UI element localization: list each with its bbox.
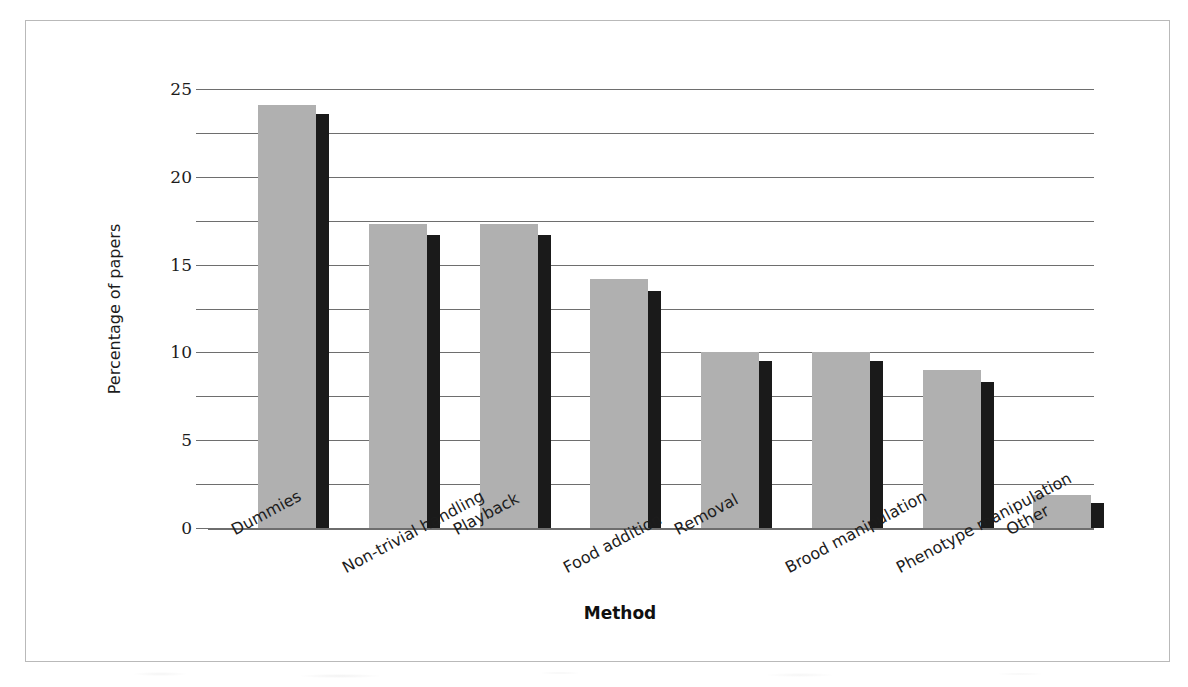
bar-gray (923, 370, 981, 528)
bar-group (369, 89, 440, 528)
y-axis-tick (196, 440, 208, 441)
bar-black (759, 361, 772, 528)
y-axis-tick (196, 89, 208, 90)
bar-group (1033, 89, 1104, 528)
y-axis-tick-labels: 0510152025 (154, 89, 192, 528)
bar-black (538, 235, 551, 528)
bar-group (923, 89, 994, 528)
y-axis-tick-label: 10 (170, 342, 192, 362)
bar-gray (812, 352, 870, 528)
y-axis-tick (196, 133, 208, 134)
y-axis-tick (196, 528, 208, 529)
bar-group (590, 89, 661, 528)
y-axis-tick (196, 265, 208, 266)
y-axis-tick-label: 15 (170, 255, 192, 275)
y-axis-tick (196, 221, 208, 222)
scan-artifact (40, 666, 1140, 684)
bar-group (812, 89, 883, 528)
x-axis-title: Method (26, 603, 1188, 623)
y-axis-tick-label: 0 (181, 518, 192, 538)
y-axis-tick (196, 177, 208, 178)
bar-gray (369, 224, 427, 528)
bar-group (480, 89, 551, 528)
figure-frame: Percentage of papers 0510152025 DummiesN… (25, 20, 1170, 662)
plot-area (208, 89, 1094, 528)
bar-gray (258, 105, 316, 528)
bar-black (648, 291, 661, 528)
y-axis-tick-label: 20 (170, 167, 192, 187)
bar-group (258, 89, 329, 528)
bar-gray (480, 224, 538, 528)
bar-black (981, 382, 994, 528)
bar-group (701, 89, 772, 528)
y-axis-tick-label: 25 (170, 79, 192, 99)
y-axis-tick (196, 484, 208, 485)
y-axis-tick (196, 309, 208, 310)
y-axis-tick (196, 352, 208, 353)
y-axis-title: Percentage of papers (105, 224, 124, 394)
bar-black (427, 235, 440, 528)
bar-black (316, 114, 329, 528)
bar-gray (590, 279, 648, 528)
y-axis-tick-label: 5 (181, 430, 192, 450)
bar-black (1091, 503, 1104, 528)
y-axis-tick (196, 396, 208, 397)
bar-black (870, 361, 883, 528)
